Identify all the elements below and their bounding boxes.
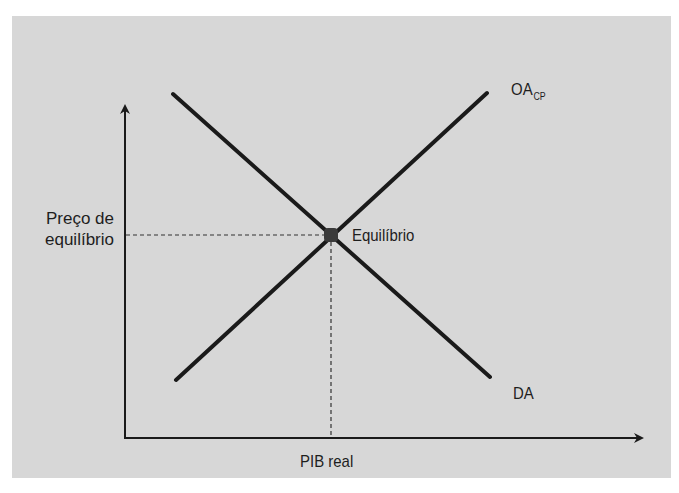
supply-curve-label: OACP [511, 80, 546, 102]
y-axis-label-line1: Preço de [22, 208, 114, 229]
y-axis-label-line2: equilíbrio [22, 229, 114, 250]
x-axis-label: PIB real [300, 452, 353, 472]
demand-curve-label: DA [513, 384, 534, 404]
equilibrium-point [324, 228, 338, 242]
supply-label-main: OA [511, 80, 533, 99]
equilibrium-label: Equilíbrio [352, 226, 414, 246]
y-axis-label: Preço de equilíbrio [22, 208, 114, 250]
supply-label-subscript: CP [533, 91, 545, 102]
